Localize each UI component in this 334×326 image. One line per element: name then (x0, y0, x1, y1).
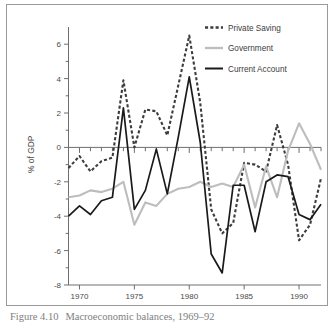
y-tick-label: -2 (54, 178, 62, 187)
figure-caption: Figure 4.10Macroeconomic balances, 1969–… (10, 311, 328, 323)
y-tick-label: -8 (54, 281, 62, 290)
x-tick-label: 1975 (125, 292, 143, 301)
x-tick-label: 1980 (180, 292, 198, 301)
figure-caption-number: Figure 4.10 (10, 311, 58, 322)
y-tick-label: -4 (54, 212, 62, 221)
y-tick-label: 4 (57, 75, 62, 84)
chart-plot-area: -8-6-4-2024619701975198019851990 % of GD… (0, 0, 334, 326)
y-tick-label: -6 (54, 247, 62, 256)
y-tick-label: 2 (57, 109, 62, 118)
figure-root: -8-6-4-2024619701975198019851990 % of GD… (0, 0, 334, 326)
figure-caption-text: Macroeconomic balances, 1969–92 (65, 311, 214, 322)
y-axis-title: % of GDP (26, 135, 36, 173)
legend-label-private-saving: Private Saving (228, 24, 281, 33)
x-tick-label: 1985 (235, 292, 253, 301)
legend-label-government: Government (228, 44, 274, 53)
x-tick-label: 1970 (71, 292, 89, 301)
axis-title-group: % of GDP (26, 135, 36, 173)
legend-group: Private SavingGovernmentCurrent Account (205, 24, 287, 74)
legend-label-current-account: Current Account (228, 65, 287, 74)
tick-labels-group: -8-6-4-2024619701975198019851990 (54, 40, 309, 301)
macroeconomic-balances-line-chart: -8-6-4-2024619701975198019851990 % of GD… (0, 0, 334, 326)
y-tick-label: 0 (57, 143, 62, 152)
x-tick-label: 1990 (290, 292, 308, 301)
y-tick-label: 6 (57, 40, 62, 49)
series-line-government (69, 123, 322, 224)
